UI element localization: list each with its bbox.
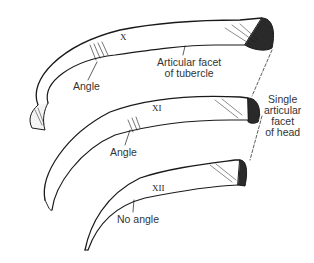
label-angle-xi: Angle: [110, 147, 137, 158]
label-articular-facet-tubercle: Articular facet of tubercle: [157, 57, 221, 79]
label-no-angle: No angle: [117, 214, 159, 225]
label-line: of tubercle: [157, 68, 221, 79]
numeral-xii: XII: [152, 183, 165, 193]
label-angle-x: Angle: [73, 81, 100, 92]
label-single-articular-facet-head: Single articular facet of head: [264, 94, 301, 138]
numeral-x: X: [120, 32, 127, 42]
rib-x: [30, 18, 274, 130]
rib-xii: [85, 160, 247, 250]
rib-xi: [44, 96, 259, 210]
numeral-xi: XI: [152, 103, 162, 113]
label-line: of head: [264, 127, 301, 138]
